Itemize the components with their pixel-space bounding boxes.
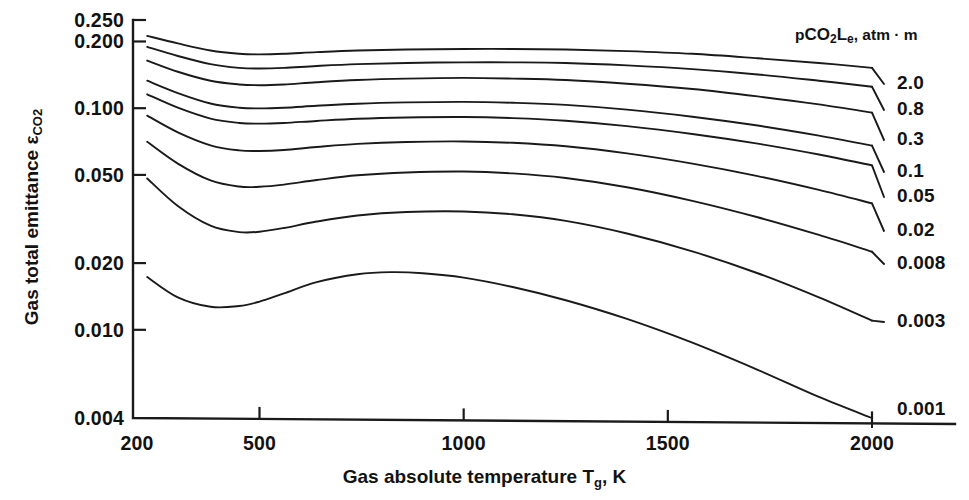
axis-frame [133, 20, 955, 424]
leader-0-02 [872, 203, 884, 231]
legend-label-0-1: 0.1 [897, 160, 924, 182]
leader-0-3 [872, 113, 884, 140]
leader-0-008 [872, 252, 884, 264]
x-tick-label-1000: 1000 [404, 432, 524, 455]
curve-0-8 [147, 47, 872, 87]
legend-title: pCO2Le, atm · m [795, 25, 917, 46]
legend-label-0-3: 0.3 [897, 128, 924, 150]
x-axis-title: Gas absolute temperature Tg, K [0, 466, 969, 490]
x-tick-label-1500: 1500 [608, 432, 728, 455]
x-tick-label-200: 200 [77, 432, 197, 455]
legend-label-0-05: 0.05 [897, 185, 935, 207]
x-tick-label-2000: 2000 [812, 432, 932, 455]
curve-0-001 [147, 272, 872, 418]
curve-0-1 [147, 81, 872, 146]
curve-0-05 [147, 94, 872, 165]
y-axis-title: Gas total emittance εCO2 [21, 47, 45, 387]
leader-0-003 [872, 321, 884, 322]
legend-label-0-001: 0.001 [897, 398, 946, 420]
legend-label-0-8: 0.8 [897, 98, 924, 120]
curve-0-008 [147, 142, 872, 252]
legend-label-2-0: 2.0 [897, 72, 924, 94]
plot-area [0, 0, 969, 500]
legend-label-0-003: 0.003 [897, 310, 946, 332]
legend-label-0-02: 0.02 [897, 219, 935, 241]
legend-label-0-008: 0.008 [897, 252, 946, 274]
leader-0-8 [872, 87, 884, 110]
curve-0-02 [147, 116, 872, 204]
curve-0-003 [147, 178, 872, 320]
figure-emittance-chart: 0.0040.0100.0200.0500.1000.2000.250 2005… [0, 0, 969, 500]
y-tick-label-0.250: 0.250 [28, 9, 124, 32]
x-tick-label-500: 500 [200, 432, 320, 455]
y-tick-label-0.004: 0.004 [28, 407, 124, 430]
leader-2-0 [872, 68, 884, 84]
